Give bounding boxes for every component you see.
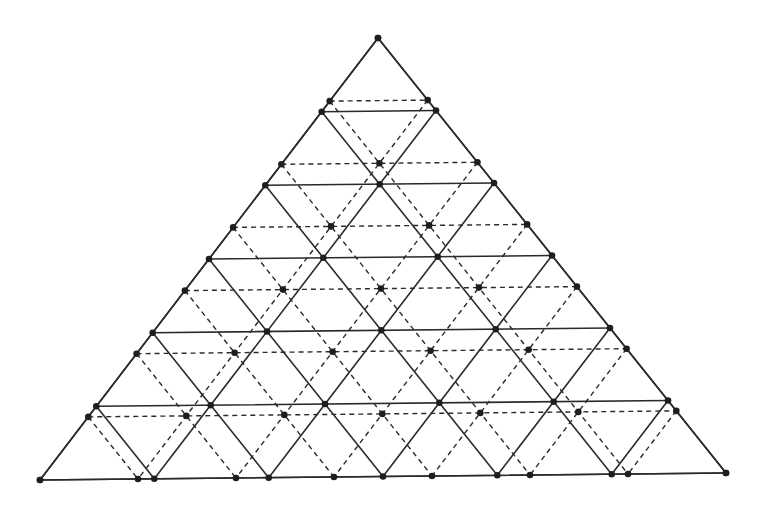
solid-grid-vertex xyxy=(262,182,269,189)
solid-grid-row-line xyxy=(322,111,436,112)
solid-grid-vertex xyxy=(151,476,158,483)
dashed-grid-vertex xyxy=(85,414,92,421)
dashed-grid-vertex xyxy=(326,98,333,105)
solid-grid-vertex xyxy=(550,398,557,405)
solid-grid-right-diagonal xyxy=(209,259,383,477)
solid-grid-vertex xyxy=(265,474,272,481)
solid-grid-vertex xyxy=(320,254,327,261)
solid-grid-row-line xyxy=(209,256,552,260)
dashed-grid-vertex xyxy=(427,347,434,354)
lattice-vertices xyxy=(37,35,730,484)
dashed-grid-vertex xyxy=(329,348,336,355)
dashed-grid-vertex xyxy=(133,350,140,357)
solid-grid-vertex xyxy=(149,329,156,336)
dashed-grid-vertex xyxy=(476,284,483,291)
dashed-grid-vertex xyxy=(625,471,632,478)
solid-grid-vertex xyxy=(549,252,556,259)
solid-grid-vertex xyxy=(608,471,615,478)
solid-grid-vertex xyxy=(93,403,100,410)
solid-grid-row-line xyxy=(96,401,668,407)
solid-grid-vertex xyxy=(433,107,440,114)
dashed-grid-vertex xyxy=(429,473,436,480)
solid-grid-left-diagonal xyxy=(154,111,436,479)
dashed-grid-vertex xyxy=(527,472,534,479)
solid-grid-vertex xyxy=(37,477,44,484)
dashed-grid-vertex xyxy=(281,412,288,419)
dashed-grid-vertex xyxy=(424,97,431,104)
solid-grid-vertex xyxy=(375,35,382,42)
dashed-grid-vertex xyxy=(574,283,581,290)
dashed-grid-vertex xyxy=(278,161,285,168)
solid-grid-vertex xyxy=(723,470,730,477)
solid-grid-vertex xyxy=(206,256,213,263)
dashed-grid-row-line xyxy=(330,100,428,101)
dashed-grid-vertex xyxy=(135,476,142,483)
dashed-grid-vertex xyxy=(379,411,386,418)
dashed-grid-vertex xyxy=(230,224,237,231)
solid-grid-vertex xyxy=(322,401,329,408)
dashed-grid-vertex xyxy=(524,221,531,228)
dashed-grid-right-diagonal xyxy=(185,291,334,477)
dashed-grid-left-diagonal xyxy=(236,162,477,478)
dashed-grid-vertex xyxy=(426,222,433,229)
solid-grid-vertex xyxy=(207,402,214,409)
dashed-grid-vertex xyxy=(474,159,481,166)
solid-grid-vertex xyxy=(607,325,614,332)
dashed-grid-vertex xyxy=(182,287,189,294)
triangular-lattice-diagram xyxy=(0,0,763,509)
solid-grid-left-diagonal xyxy=(383,256,552,477)
dashed-grid-vertex xyxy=(280,286,287,293)
solid-grid-vertex xyxy=(378,327,385,334)
solid-grid-vertex xyxy=(494,472,501,479)
solid-grid-vertex xyxy=(380,473,387,480)
dashed-grid-vertex xyxy=(673,408,680,415)
dashed-grid-vertex xyxy=(623,345,630,352)
solid-grid-vertex xyxy=(492,326,499,333)
solid-grid-vertex xyxy=(436,400,443,407)
dashed-grid-vertex xyxy=(331,474,338,481)
dashed-grid-vertex xyxy=(183,413,190,420)
solid-grid-vertex xyxy=(491,180,498,187)
solid-grid-vertex xyxy=(376,181,383,188)
dashed-grid-vertex xyxy=(378,285,385,292)
solid-grid-vertex xyxy=(264,328,271,335)
solid-grid-vertex xyxy=(665,397,672,404)
solid-grid-vertex xyxy=(434,253,441,260)
dashed-grid-vertex xyxy=(477,410,484,417)
dashed-grid-right-diagonal xyxy=(281,164,530,475)
solid-grid-right-diagonal xyxy=(322,112,612,475)
dashed-grid-row-line xyxy=(137,349,627,354)
dashed-grid-vertex xyxy=(328,223,335,230)
dashed-grid-row-line xyxy=(233,224,527,227)
dashed-grid-vertex xyxy=(525,346,532,353)
dashed-grid-left-diagonal xyxy=(432,287,577,476)
dashed-grid-vertex xyxy=(376,160,383,167)
dashed-grid-vertex xyxy=(575,409,582,416)
dashed-grid-vertex xyxy=(231,349,238,356)
solid-grid-vertex xyxy=(318,108,325,115)
dashed-grid-vertex xyxy=(233,475,240,482)
